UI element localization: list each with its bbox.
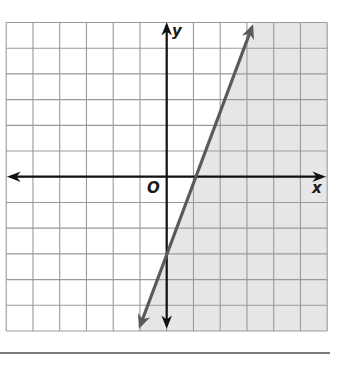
x-axis-label: x xyxy=(311,179,323,197)
y-axis-label: y xyxy=(172,22,183,40)
origin-label: O xyxy=(147,179,160,197)
coordinate-graph: y x O xyxy=(0,0,346,369)
